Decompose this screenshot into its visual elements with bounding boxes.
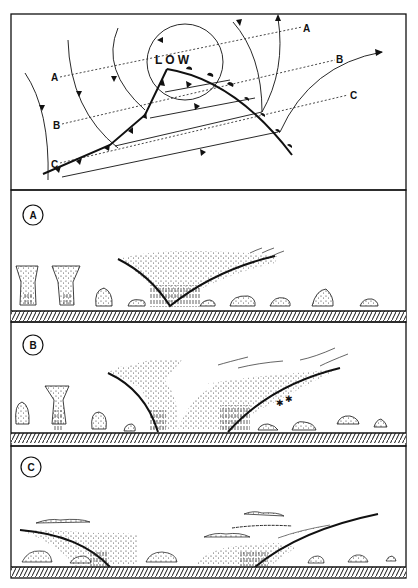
cross-section-a: A <box>11 190 406 322</box>
section-a-start-label: A <box>51 72 58 83</box>
surface-map-panel: LOW A A B B C C <box>11 14 406 190</box>
cross-section-c: C <box>11 446 406 578</box>
section-c-start-label: C <box>51 159 58 170</box>
section-a-end-label: A <box>303 23 310 34</box>
weather-front-diagram: LOW A A B B C C A <box>0 0 418 588</box>
panel-a-badge: A <box>29 210 36 221</box>
section-b-end-label: B <box>336 54 343 65</box>
section-b-start-label: B <box>53 120 60 131</box>
cross-section-b: B ✱ ✱ <box>11 322 406 446</box>
low-label: LOW <box>155 53 192 67</box>
panel-b-badge: B <box>29 340 36 351</box>
snow-icon: ✱ <box>276 398 284 408</box>
panel-c-badge: C <box>27 462 34 473</box>
section-c-end-label: C <box>350 90 357 101</box>
snow-icon: ✱ <box>285 394 293 404</box>
